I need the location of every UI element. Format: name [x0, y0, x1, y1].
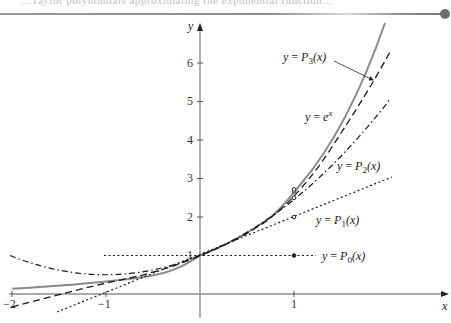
y-tick-label-3: 3 — [187, 171, 193, 185]
curve-p1 — [57, 177, 392, 312]
x-axis-label: x — [441, 299, 448, 313]
y-axis-label: y — [187, 19, 194, 33]
y-tick-label-4: 4 — [187, 133, 193, 147]
y-axis-arrow-icon — [197, 23, 203, 31]
label-p0: y = P0(x) — [321, 249, 365, 265]
point-p2 — [292, 196, 296, 200]
y-tick-label-6: 6 — [187, 56, 193, 70]
label-exp: y = ex — [304, 108, 332, 124]
taylor-polynomials-chart: 1 2 3 4 5 6 −2 −1 1 x y y = P3(x) y = ex… — [0, 0, 451, 323]
y-tick-label-2: 2 — [187, 210, 193, 224]
marked-points-at-x-1 — [292, 188, 296, 258]
axes: 1 2 3 4 5 6 −2 −1 1 x y — [3, 19, 449, 318]
x-tick-label-1: 1 — [291, 297, 297, 311]
x-tick-label-neg1: −1 — [98, 297, 111, 311]
x-tick-label-neg2: −2 — [3, 297, 16, 311]
label-p2: y = P2(x) — [336, 159, 380, 175]
point-p0 — [292, 254, 296, 258]
x-axis-arrow-icon — [441, 291, 449, 297]
label-p1: y = P1(x) — [315, 213, 359, 229]
point-exp — [292, 188, 296, 192]
point-p1 — [292, 215, 296, 219]
y-tick-label-5: 5 — [187, 94, 193, 108]
label-p3: y = P3(x) — [282, 50, 326, 66]
